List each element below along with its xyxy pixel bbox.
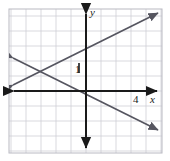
x-tick-label-4: 4 [133,93,139,105]
graph-canvas: y x 4 1 [0,0,170,161]
coordinate-graph-figure: y x 4 1 [0,0,170,161]
y-axis-label: y [89,6,95,18]
y-tick-label-1: 1 [75,63,81,75]
x-axis-label: x [149,93,155,105]
